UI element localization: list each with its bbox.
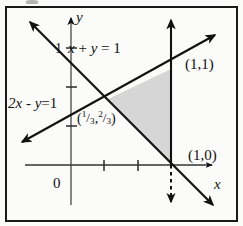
point-label-1-0: (1,0) <box>188 148 217 163</box>
paren-close: ) <box>111 111 116 126</box>
point-label-one-third-two-thirds: (1/3,2/3) <box>77 110 116 129</box>
feasible-region-shading <box>108 69 171 165</box>
y-axis-label: y <box>76 10 83 25</box>
fraction-one-third-numerator: 1 <box>82 109 87 119</box>
point-label-1-1: (1,1) <box>185 57 214 72</box>
fraction-two-thirds: 2/3 <box>98 109 111 128</box>
line-label-2x-minus-y: 2x - y=1 <box>8 96 57 111</box>
plot-canvas <box>0 0 243 226</box>
x-axis-label: x <box>214 177 221 192</box>
y-tick-label-1: 1 <box>55 42 62 56</box>
line-label-x-plus-y-eq: = 1 <box>97 40 120 56</box>
origin-label: 0 <box>53 176 61 191</box>
fraction-one-third: 1/3 <box>82 109 95 128</box>
fraction-one-third-denominator: 3 <box>90 116 95 126</box>
figure-root: y x 0 1 x + y = 1 2x - y=1 (1,1) (1,0) (… <box>0 0 243 226</box>
line-label-x-plus-y-op: + <box>75 40 91 56</box>
line-label-x-plus-y: x + y = 1 <box>68 41 121 56</box>
line-label-2x-minus-y-lhs-a: 2x <box>8 95 22 111</box>
line-label-2x-minus-y-eq: =1 <box>41 95 57 111</box>
fraction-two-thirds-denominator: 3 <box>106 116 111 126</box>
line-label-2x-minus-y-op: - <box>22 95 35 111</box>
line-label-x-plus-y-lhs-a: x <box>68 40 75 56</box>
fraction-two-thirds-numerator: 2 <box>98 109 103 119</box>
